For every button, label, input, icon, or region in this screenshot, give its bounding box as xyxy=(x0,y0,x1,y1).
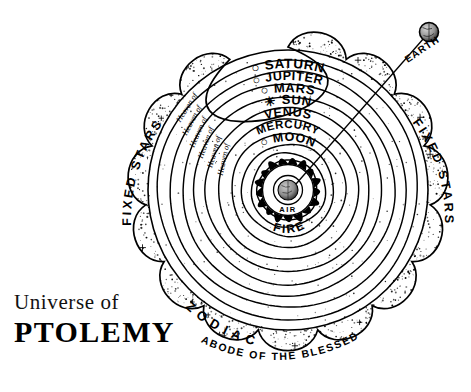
terrestrial-center: AIR FIRE xyxy=(255,158,321,236)
air-label: AIR xyxy=(279,205,297,214)
sphere-labels: ○ SATURN○ JUPITER○ MARS☀ SUNVENUSMERCURY… xyxy=(250,56,327,150)
heaven-of-labels: Heaven ofHeaven ofHeaven ofHeaven ofHeav… xyxy=(174,90,232,178)
figure-title: Universe of PTOLEMY xyxy=(14,292,175,347)
title-line-1: Universe of xyxy=(14,292,175,313)
ptolemy-universe-figure: FIXED STARS FIXED STARS Z O D I A C ABOD… xyxy=(0,0,471,392)
earth-callout: EARTH xyxy=(296,23,441,185)
title-line-2: PTOLEMY xyxy=(14,317,175,347)
